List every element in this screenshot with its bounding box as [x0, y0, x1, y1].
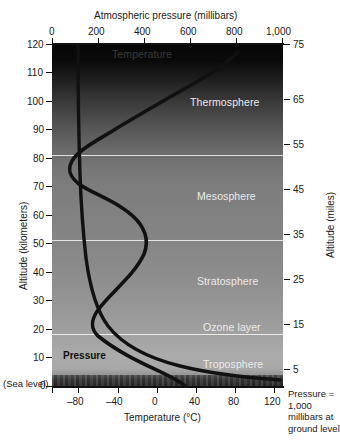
right-tick-55: 55 — [293, 139, 304, 150]
top-axis-title: Atmospheric pressure (millibars) — [94, 10, 237, 21]
left-tickmark — [46, 272, 52, 273]
right-tickmark — [284, 369, 290, 370]
left-tick-60: 60 — [33, 210, 44, 221]
right-axis-title: Altitude (miles) — [325, 192, 336, 258]
bottom-tickmark — [274, 388, 275, 393]
layer-label-stratosphere: Stratosphere — [197, 275, 258, 287]
right-tick-15: 15 — [293, 319, 304, 330]
right-tick-65: 65 — [293, 94, 304, 105]
left-tick-110: 110 — [27, 67, 43, 78]
chart-plot-area: Temperature Thermosphere Mesosphere Stra… — [52, 44, 283, 386]
bottom-tickmark — [52, 388, 53, 393]
right-tickmark — [284, 234, 290, 235]
right-tick-25: 25 — [293, 274, 304, 285]
top-tick-0: 0 — [49, 26, 55, 37]
bottom-tickmark — [196, 388, 197, 393]
left-tickmark — [46, 72, 52, 73]
left-tickmark — [46, 357, 52, 358]
layer-label-mesosphere: Mesosphere — [197, 190, 256, 202]
left-tick-90: 90 — [33, 124, 44, 135]
right-tickmark — [284, 279, 290, 280]
right-tickmark — [284, 189, 290, 190]
bottom-tick-0: 0 — [152, 396, 158, 407]
bottom-axis-title: Temperature (°C) — [124, 412, 201, 423]
left-tickmark — [46, 215, 52, 216]
right-tick-45: 45 — [293, 184, 304, 195]
left-tick-120: 120 — [27, 39, 44, 50]
left-tickmark — [46, 44, 52, 45]
bottom-tickmark — [118, 388, 119, 393]
right-tick-5: 5 — [293, 364, 299, 375]
layer-label-ozone: Ozone layer — [203, 321, 261, 333]
right-tickmark — [284, 324, 290, 325]
left-tickmark — [46, 129, 52, 130]
top-tick-800: 800 — [226, 26, 243, 37]
bottom-tick-40: 40 — [189, 396, 200, 407]
right-tickmark — [284, 144, 290, 145]
bottom-tick-neg80: –80 — [67, 396, 84, 407]
right-tick-75: 75 — [293, 39, 304, 50]
left-axis-title: Altitude (kilometers) — [18, 202, 29, 290]
top-axis-line — [52, 43, 284, 45]
top-tick-400: 400 — [134, 26, 151, 37]
pressure-curve-label: Pressure — [63, 350, 106, 361]
ground-pressure-note: Pressure = 1,000 millibars at ground lev… — [288, 388, 340, 434]
right-tick-35: 35 — [293, 229, 304, 240]
top-tick-600: 600 — [180, 26, 197, 37]
left-tickmark — [46, 329, 52, 330]
bottom-tick-120: 120 — [264, 396, 281, 407]
layer-label-thermosphere: Thermosphere — [190, 96, 259, 108]
sea-level-label: (Sea level) — [3, 378, 49, 389]
left-tick-40: 40 — [33, 267, 44, 278]
left-tick-100: 100 — [27, 96, 44, 107]
bottom-axis-line — [52, 386, 284, 388]
left-tick-20: 20 — [33, 324, 44, 335]
layer-label-troposphere: Troposphere — [203, 358, 263, 370]
top-tick-1000: 1,000 — [266, 26, 291, 37]
bottom-tickmark — [78, 388, 79, 393]
right-tickmark — [284, 99, 290, 100]
left-tickmark — [46, 243, 52, 244]
temperature-curve-label: Temperature — [112, 48, 172, 60]
left-tick-30: 30 — [33, 295, 44, 306]
bottom-tickmark — [235, 388, 236, 393]
left-tickmark — [46, 186, 52, 187]
left-tickmark — [46, 300, 52, 301]
bottom-tick-neg40: –40 — [106, 396, 123, 407]
left-tick-10: 10 — [33, 352, 44, 363]
left-tickmark — [46, 101, 52, 102]
left-tickmark — [46, 158, 52, 159]
left-tick-50: 50 — [33, 238, 44, 249]
top-tick-200: 200 — [88, 26, 105, 37]
right-tickmark — [284, 44, 290, 45]
bottom-tickmark — [157, 388, 158, 393]
bottom-tick-80: 80 — [228, 396, 239, 407]
left-tick-70: 70 — [33, 181, 44, 192]
left-tick-80: 80 — [33, 153, 44, 164]
